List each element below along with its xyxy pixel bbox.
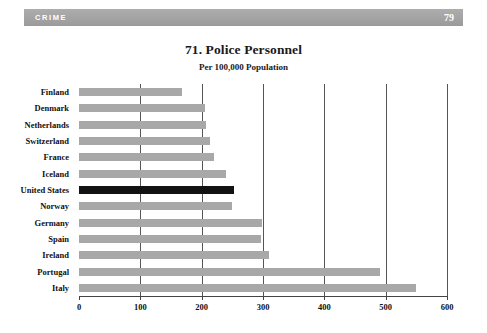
bar — [79, 219, 262, 227]
bar — [79, 268, 380, 276]
x-axis-tick — [263, 296, 264, 300]
category-label: United States — [0, 185, 69, 195]
category-label: Denmark — [0, 103, 69, 113]
category-label: Spain — [0, 234, 69, 244]
x-axis-tick-label: 200 — [195, 302, 208, 312]
x-axis-tick — [202, 296, 203, 300]
x-axis-tick — [386, 296, 387, 300]
category-label: Finland — [0, 87, 69, 97]
x-axis-tick-label: 400 — [318, 302, 331, 312]
x-axis-tick-label: 300 — [257, 302, 270, 312]
running-header: CRIME 79 — [24, 9, 463, 26]
bar — [79, 170, 226, 178]
category-axis-labels: FinlandDenmarkNetherlandsSwitzerlandFran… — [0, 84, 74, 296]
category-label: Portugal — [0, 267, 69, 277]
bar-highlight — [79, 186, 234, 194]
bar — [79, 153, 214, 161]
bar — [79, 121, 206, 129]
x-axis-tick — [140, 296, 141, 300]
bar-chart: FinlandDenmarkNetherlandsSwitzerlandFran… — [0, 84, 487, 314]
page-number: 79 — [444, 12, 454, 23]
gridline — [386, 84, 387, 296]
category-label: Norway — [0, 201, 69, 211]
bar — [79, 88, 182, 96]
bar — [79, 251, 269, 259]
x-axis-tick-label: 600 — [441, 302, 454, 312]
bar — [79, 104, 205, 112]
header-section-label: CRIME — [35, 13, 67, 22]
gridline — [263, 84, 264, 296]
category-label: Netherlands — [0, 120, 69, 130]
x-axis-tick — [79, 296, 80, 300]
x-axis-tick — [324, 296, 325, 300]
bar — [79, 202, 232, 210]
bar — [79, 235, 261, 243]
category-label: Ireland — [0, 250, 69, 260]
category-label: Iceland — [0, 169, 69, 179]
chart-subtitle: Per 100,000 Population — [0, 62, 487, 72]
gridline — [324, 84, 325, 296]
bar — [79, 137, 210, 145]
category-label: Italy — [0, 283, 69, 293]
x-axis-tick — [447, 296, 448, 300]
chart-title: 71. Police Personnel — [0, 42, 487, 58]
x-axis-tick-label: 500 — [379, 302, 392, 312]
x-axis-tick-label: 100 — [134, 302, 147, 312]
plot-area — [79, 84, 447, 296]
category-label: France — [0, 152, 69, 162]
gridline — [447, 84, 448, 296]
category-label: Germany — [0, 218, 69, 228]
bar — [79, 284, 416, 292]
x-axis-tick-label: 0 — [77, 302, 81, 312]
category-label: Switzerland — [0, 136, 69, 146]
